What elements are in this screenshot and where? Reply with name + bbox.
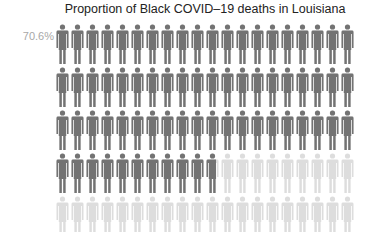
person-icon	[72, 153, 84, 193]
person-icon	[342, 24, 354, 64]
person-icon	[132, 67, 144, 107]
person-icon	[102, 67, 114, 107]
person-icon	[327, 110, 339, 150]
person-icon	[162, 24, 174, 64]
person-icon	[192, 110, 204, 150]
person-icon	[72, 24, 84, 64]
person-icon	[267, 110, 279, 150]
person-icon	[297, 196, 309, 232]
person-icon	[162, 196, 174, 232]
person-icon	[282, 67, 294, 107]
person-icon	[102, 196, 114, 232]
person-icon	[207, 196, 219, 232]
person-icon	[132, 110, 144, 150]
person-icon	[297, 110, 309, 150]
person-icon	[252, 110, 264, 150]
person-icon	[327, 196, 339, 232]
person-icon	[147, 196, 159, 232]
person-icon	[132, 24, 144, 64]
person-icon	[102, 24, 114, 64]
person-icon	[222, 153, 234, 193]
person-icon	[327, 153, 339, 193]
filled-icons	[57, 24, 354, 232]
person-icon	[57, 153, 69, 193]
person-icon	[282, 110, 294, 150]
person-icon	[117, 110, 129, 150]
person-icon	[102, 110, 114, 150]
person-icon	[237, 196, 249, 232]
person-icon	[222, 24, 234, 64]
person-icon	[267, 196, 279, 232]
person-icon	[222, 67, 234, 107]
person-icon	[237, 110, 249, 150]
person-icon	[282, 24, 294, 64]
person-icon	[192, 24, 204, 64]
person-icon	[252, 24, 264, 64]
person-icon	[87, 196, 99, 232]
person-icon	[252, 67, 264, 107]
person-icon	[342, 110, 354, 150]
person-icon	[252, 153, 264, 193]
person-icon	[282, 196, 294, 232]
person-icon	[312, 196, 324, 232]
person-icon	[342, 196, 354, 232]
person-icon	[117, 24, 129, 64]
person-icon	[237, 67, 249, 107]
person-icon	[102, 153, 114, 193]
person-icon	[72, 110, 84, 150]
person-icon	[222, 196, 234, 232]
empty-icons	[57, 24, 354, 232]
person-icon	[312, 67, 324, 107]
person-icon	[192, 67, 204, 107]
person-icon	[117, 153, 129, 193]
person-icon	[207, 67, 219, 107]
person-icon	[177, 196, 189, 232]
person-icon	[312, 153, 324, 193]
person-icon	[162, 153, 174, 193]
person-icon	[207, 24, 219, 64]
person-icon	[147, 67, 159, 107]
person-icon	[177, 110, 189, 150]
person-icon	[147, 24, 159, 64]
person-icon	[132, 196, 144, 232]
person-icon	[117, 196, 129, 232]
person-icon	[72, 67, 84, 107]
person-icon	[222, 110, 234, 150]
person-icon	[87, 110, 99, 150]
person-icon	[87, 24, 99, 64]
pictograph-grid	[0, 0, 376, 232]
person-icon	[57, 196, 69, 232]
person-icon	[267, 153, 279, 193]
person-icon	[147, 110, 159, 150]
person-icon	[252, 196, 264, 232]
person-icon	[177, 67, 189, 107]
person-icon	[162, 110, 174, 150]
person-icon	[327, 24, 339, 64]
person-icon	[87, 153, 99, 193]
person-icon	[207, 110, 219, 150]
person-icon	[57, 67, 69, 107]
person-icon	[237, 153, 249, 193]
person-icon	[297, 24, 309, 64]
person-icon	[87, 67, 99, 107]
person-icon	[237, 24, 249, 64]
person-icon	[207, 153, 219, 193]
person-icon	[117, 67, 129, 107]
person-icon	[342, 67, 354, 107]
person-icon	[177, 153, 189, 193]
person-icon	[297, 153, 309, 193]
person-icon	[312, 24, 324, 64]
person-icon	[327, 67, 339, 107]
person-icon	[267, 24, 279, 64]
person-icon	[72, 196, 84, 232]
person-icon	[162, 67, 174, 107]
person-icon	[57, 24, 69, 64]
person-icon	[297, 67, 309, 107]
person-icon	[177, 24, 189, 64]
person-icon	[342, 153, 354, 193]
person-icon	[192, 196, 204, 232]
person-icon	[57, 110, 69, 150]
person-icon	[132, 153, 144, 193]
person-icon	[192, 153, 204, 193]
person-icon	[147, 153, 159, 193]
